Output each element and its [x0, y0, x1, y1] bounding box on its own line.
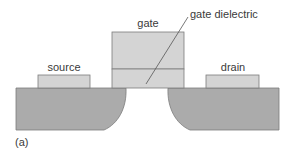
source-doped-region [16, 88, 126, 130]
gate-label: gate [137, 17, 158, 29]
mosfet-diagram: gate gate dielectric source drain (a) [0, 0, 294, 153]
drain-contact [206, 75, 259, 88]
source-label: source [47, 61, 80, 73]
gate-dielectric-label: gate dielectric [190, 8, 258, 20]
gate-dielectric-layer [112, 69, 184, 88]
source-contact [38, 75, 90, 88]
gate-electrode [112, 32, 184, 69]
drain-label: drain [221, 61, 245, 73]
panel-label: (a) [15, 136, 28, 148]
drain-doped-region [168, 88, 279, 130]
